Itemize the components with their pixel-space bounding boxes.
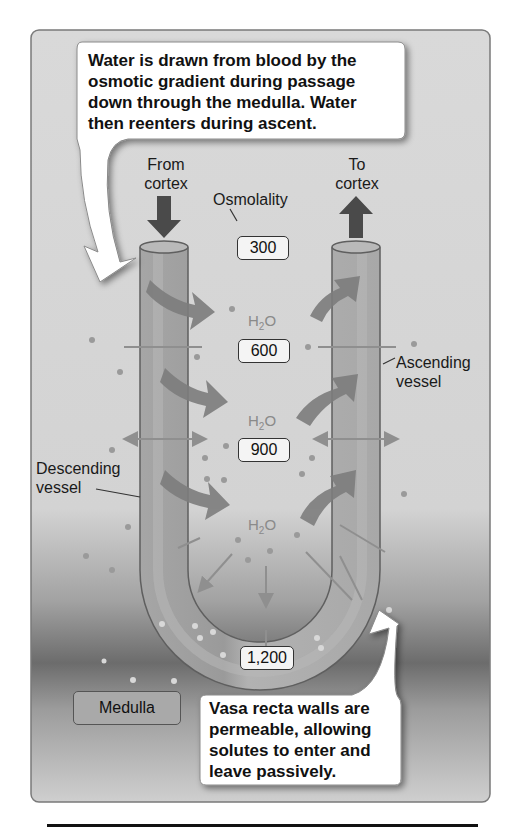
top-callout-line: down through the medulla. Water bbox=[88, 92, 408, 113]
bottom-callout-line: solutes to enter and bbox=[209, 740, 399, 761]
osmolality-value-1200: 1,200 bbox=[240, 646, 294, 670]
osmolality-value-900: 900 bbox=[238, 438, 290, 462]
top-callout-line: osmotic gradient during passage bbox=[88, 71, 408, 92]
water-label: H2O bbox=[248, 312, 276, 332]
descending-vessel-line: vessel bbox=[36, 478, 121, 497]
from-cortex-line: cortex bbox=[131, 174, 201, 193]
vasa-recta-diagram: Water is drawn from blood by the osmotic… bbox=[0, 0, 514, 828]
bottom-callout-line: permeable, allowing bbox=[209, 719, 399, 740]
ascending-vessel-label: Ascending vessel bbox=[396, 353, 471, 391]
medulla-label: Medulla bbox=[73, 691, 181, 725]
descending-vessel-label: Descending vessel bbox=[36, 459, 121, 497]
bottom-callout-line: leave passively. bbox=[209, 761, 399, 782]
water-label: H2O bbox=[248, 516, 276, 536]
top-callout-text: Water is drawn from blood by the osmotic… bbox=[88, 50, 408, 134]
osmolality-value-600: 600 bbox=[238, 339, 290, 363]
bottom-callout-text: Vasa recta walls are permeable, allowing… bbox=[209, 698, 399, 782]
to-cortex-line: cortex bbox=[322, 174, 392, 193]
top-callout-line: Water is drawn from blood by the bbox=[88, 50, 408, 71]
osmolality-label: Osmolality bbox=[213, 190, 288, 209]
top-callout-line: then reenters during ascent. bbox=[88, 113, 408, 134]
bottom-divider bbox=[47, 824, 478, 827]
osmolality-value-300: 300 bbox=[237, 236, 289, 260]
ascending-vessel-line: vessel bbox=[396, 372, 471, 391]
descending-vessel-line: Descending bbox=[36, 459, 121, 478]
bottom-callout-line: Vasa recta walls are bbox=[209, 698, 399, 719]
ascending-vessel-line: Ascending bbox=[396, 353, 471, 372]
from-cortex-line: From bbox=[131, 155, 201, 174]
water-label: H2O bbox=[248, 412, 276, 432]
to-cortex-label: To cortex bbox=[322, 155, 392, 193]
from-cortex-label: From cortex bbox=[131, 155, 201, 193]
to-cortex-line: To bbox=[322, 155, 392, 174]
